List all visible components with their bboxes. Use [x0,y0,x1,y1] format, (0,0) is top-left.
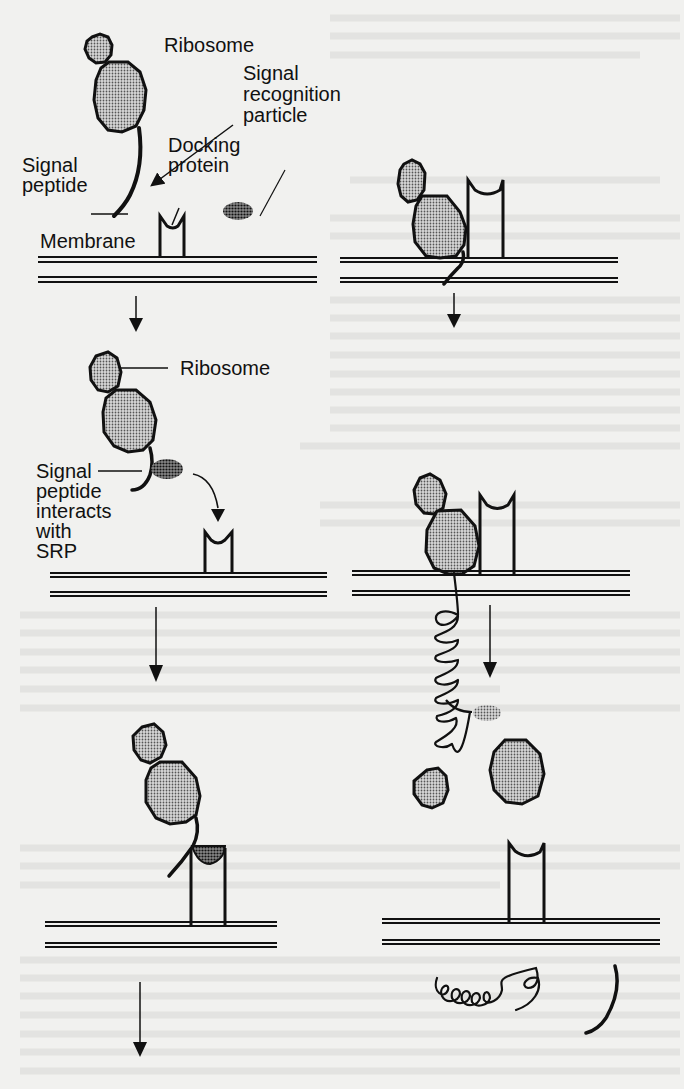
ribosome-small-subunit [133,724,166,763]
panel-1a: Ribosome Signal recognition particle Doc… [22,34,341,332]
docking-leader [172,208,179,225]
ribosome-large-subunit [426,510,479,574]
membrane [50,573,327,596]
membrane [352,571,630,595]
signal-peptide [132,448,152,490]
ribosome-large-subunit [146,762,200,824]
label-interacts-5: SRP [36,540,77,562]
ribosome-small-subunit [90,352,121,392]
label-interacts-1: Signal [36,460,92,482]
label-membrane: Membrane [40,230,136,252]
membrane [382,919,660,944]
label-signal-peptide-1: Signal [22,154,78,176]
panel-3b [382,843,660,1033]
docking-protein [160,216,184,257]
completed-protein-coil [436,968,539,1010]
label-srp-3: particle [243,104,307,126]
membrane [340,258,618,282]
curved-arrow [193,474,218,508]
label-ribosome: Ribosome [164,34,254,56]
released-small-subunit [414,768,448,808]
membrane [45,922,277,947]
label-srp-1: Signal [243,62,299,84]
label-docking-1: Docking [168,134,240,156]
srp-bound [192,846,225,864]
cleaved-signal-peptide [473,705,501,721]
srp-particle [223,202,253,220]
docking-protein [509,843,544,922]
label-interacts-3: interacts [36,500,112,522]
arrowhead-icon [129,318,143,332]
coiled-polypeptide [435,573,470,752]
ribosome-small-subunit [414,474,446,514]
ribosome-large-subunit [103,390,156,452]
srp-particle [151,459,183,479]
label-interacts-2: peptide [36,480,102,502]
panel-3a [45,724,277,1057]
label-signal-peptide-2: peptide [22,174,88,196]
label-ribosome-2: Ribosome [180,357,270,379]
ribosome-large-subunit [413,196,466,258]
label-srp-2: recognition [243,83,341,105]
arrowhead-icon [211,509,225,522]
srp-translocation-diagram: Ribosome Signal recognition particle Doc… [0,0,684,1089]
label-docking-2: protein [168,154,229,176]
docking-protein [205,532,232,574]
ribosome-small-subunit [85,34,112,63]
srp-leader [260,170,285,216]
released-large-subunit [490,740,544,804]
ribosome-large-subunit [94,62,146,132]
membrane [38,257,317,282]
bleed-through-texture [20,18,680,1071]
signal-peptide [114,128,140,216]
label-interacts-4: with [35,520,72,542]
